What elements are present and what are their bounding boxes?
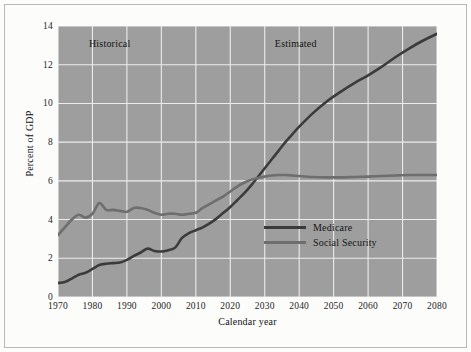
x-tick-label: 2050 [324,301,344,311]
y-tick-label: 10 [43,98,53,108]
annotation-historical: Historical [89,38,130,49]
x-tick-label: 2020 [220,301,240,311]
annotation-estimated: Estimated [275,38,317,49]
x-tick-label: 2010 [186,301,206,311]
y-tick-label: 8 [48,137,53,147]
y-tick-label: 14 [43,21,53,31]
legend-swatch-icon [264,241,306,244]
series-curves [58,26,437,297]
x-tick-label: 1980 [83,301,103,311]
x-tick-label: 2060 [358,301,378,311]
x-tick-label: 2000 [151,301,171,311]
x-axis-ticks: 1970198019902000201020202030204020502060… [58,301,437,315]
y-tick-label: 12 [43,60,53,70]
legend-item: Social Security [264,235,394,250]
x-tick-label: 1990 [117,301,137,311]
x-tick-label: 2070 [393,301,413,311]
x-axis-title: Calendar year [58,316,437,327]
y-axis-title: Percent of GDP [24,74,35,214]
y-tick-label: 6 [48,176,53,186]
figure: 02468101214 1970198019902000201020202030… [0,0,471,352]
x-tick-label: 2040 [289,301,309,311]
plot-area [58,26,437,297]
legend-swatch-icon [264,226,306,229]
legend-label: Medicare [313,222,352,233]
legend-item: Medicare [264,220,394,235]
x-tick-label: 2030 [255,301,275,311]
legend: MedicareSocial Security [264,220,394,250]
x-tick-label: 2080 [427,301,447,311]
y-tick-label: 2 [48,253,53,263]
x-tick-label: 1970 [48,301,68,311]
y-tick-label: 4 [48,215,53,225]
legend-label: Social Security [313,237,377,248]
